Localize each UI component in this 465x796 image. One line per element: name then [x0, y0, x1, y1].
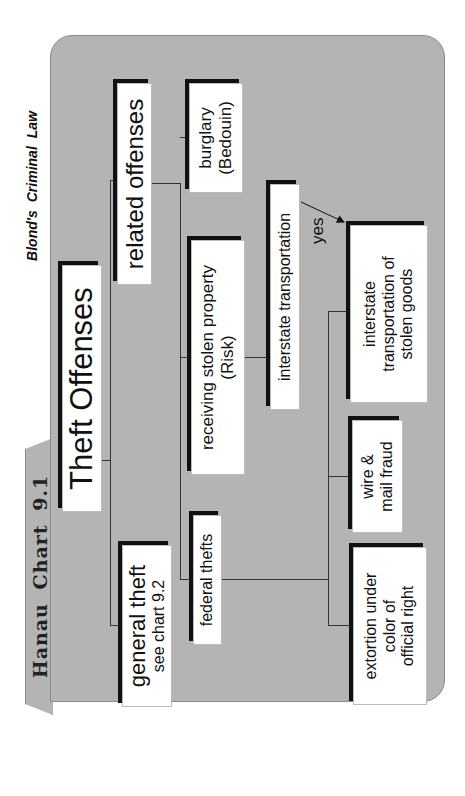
node-sublabel: see chart 9.2	[150, 580, 168, 673]
node-related-offenses: related offenses	[117, 83, 152, 285]
node-extortion: extortion under color of official right	[353, 547, 427, 705]
node-line: extortion under	[362, 573, 380, 680]
node-label: federal thefts	[198, 534, 216, 627]
node-line: (Bedouin)	[216, 101, 236, 175]
node-line: stolen goods	[398, 269, 416, 360]
node-line: transportation of	[380, 256, 398, 372]
node-federal-thefts: federal thefts	[193, 515, 222, 645]
node-interstate-transportation: interstate transportation	[270, 184, 300, 410]
node-label: general theft	[125, 565, 150, 687]
node-line: color of	[381, 600, 399, 652]
node-receiving-stolen-property: receiving stolen property (Risk)	[191, 240, 245, 475]
node-line: burglary	[196, 107, 216, 168]
node-general-theft: general theft see chart 9.2	[122, 545, 172, 707]
node-line: (Risk)	[218, 335, 238, 379]
node-label: interstate transportation	[276, 213, 294, 381]
node-burglary: burglary (Bedouin)	[189, 83, 243, 193]
node-line: receiving stolen property	[198, 265, 218, 450]
node-line: official right	[399, 586, 417, 667]
node-interstate-stolen-goods: interstate transportation of stolen good…	[350, 225, 428, 403]
node-line: wire &	[359, 454, 377, 498]
node-line: interstate	[361, 281, 379, 347]
node-label: Theft Offenses	[64, 287, 100, 490]
node-theft-offenses: Theft Offenses	[62, 265, 102, 512]
node-line: mail fraud	[378, 441, 396, 511]
node-wire-mail-fraud: wire & mail fraud	[352, 420, 403, 533]
rotated-diagram-stage: Hanau Chart 9.1 Blond's Criminal Law yes…	[0, 0, 465, 796]
node-label: related offenses	[121, 99, 149, 269]
arrow-label-yes: yes	[308, 218, 328, 244]
